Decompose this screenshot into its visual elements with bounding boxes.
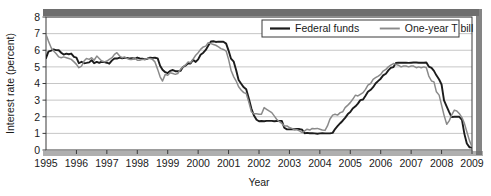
y-tick-label: 6 bbox=[34, 44, 40, 56]
x-tick-label: 1999 bbox=[156, 157, 180, 169]
y-axis-label: Interest rate (percent) bbox=[4, 33, 16, 134]
y-tick-label: 3 bbox=[34, 94, 40, 106]
chart-canvas: 012345678 199519961997199819992000200120… bbox=[0, 0, 491, 196]
y-tick-label: 1 bbox=[34, 127, 40, 139]
x-tick-label: 1997 bbox=[95, 157, 119, 169]
x-tick-label: 1995 bbox=[34, 157, 58, 169]
x-tick-label: 2003 bbox=[278, 157, 302, 169]
x-tick-label: 2005 bbox=[339, 157, 363, 169]
chart-legend: Federal fundsOne-year T bill bbox=[262, 20, 473, 37]
y-tick-label: 8 bbox=[34, 11, 40, 23]
y-tick-label: 7 bbox=[34, 27, 40, 39]
x-tick-label: 2000 bbox=[186, 157, 210, 169]
x-tick-label: 2006 bbox=[369, 157, 393, 169]
y-tick-label: 4 bbox=[34, 77, 40, 89]
x-axis-label: Year bbox=[248, 176, 270, 188]
y-tick-label: 5 bbox=[34, 61, 40, 73]
legend-label: Federal funds bbox=[295, 22, 359, 34]
y-tick-label: 2 bbox=[34, 111, 40, 123]
x-tick-label: 1998 bbox=[126, 157, 150, 169]
x-tick-label: 2004 bbox=[308, 157, 332, 169]
interest-rate-chart: 012345678 199519961997199819992000200120… bbox=[0, 0, 491, 196]
x-tick-label: 2008 bbox=[430, 157, 454, 169]
legend-label: One-year T bill bbox=[405, 22, 473, 34]
x-tick-label: 1996 bbox=[65, 157, 89, 169]
x-tick-label: 2001 bbox=[217, 157, 241, 169]
x-tick-label: 2009 bbox=[460, 157, 484, 169]
x-tick-label: 2002 bbox=[247, 157, 271, 169]
x-tick-label: 2007 bbox=[399, 157, 423, 169]
y-tick-label: 0 bbox=[34, 144, 40, 156]
